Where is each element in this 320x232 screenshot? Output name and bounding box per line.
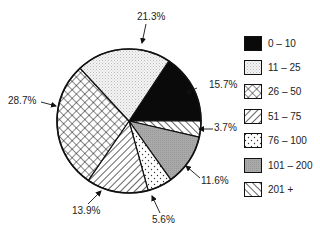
legend-item: 51 – 75 bbox=[244, 104, 313, 128]
legend-swatch bbox=[244, 182, 262, 197]
percent-label: 15.7% bbox=[209, 79, 237, 90]
percent-label: 28.7% bbox=[8, 95, 36, 106]
legend-swatch bbox=[244, 60, 262, 75]
legend-item: 101 – 200 bbox=[244, 153, 313, 177]
legend-item: 26 – 50 bbox=[244, 80, 313, 104]
legend: 0 – 1011 – 2526 – 5051 – 7576 – 100101 –… bbox=[244, 31, 313, 202]
legend-label: 0 – 10 bbox=[268, 38, 296, 49]
label-arrow bbox=[41, 102, 56, 106]
percent-label: 3.7% bbox=[214, 122, 237, 133]
label-arrow bbox=[88, 191, 101, 204]
legend-swatch bbox=[244, 36, 262, 51]
legend-label: 101 – 200 bbox=[268, 160, 313, 171]
label-arrow bbox=[186, 166, 200, 178]
legend-label: 51 – 75 bbox=[268, 111, 301, 122]
percent-label: 11.6% bbox=[201, 175, 229, 186]
percent-label: 13.9% bbox=[72, 205, 100, 216]
label-arrow bbox=[152, 196, 160, 213]
legend-swatch bbox=[244, 84, 262, 99]
legend-label: 26 – 50 bbox=[268, 86, 301, 97]
legend-label: 76 – 100 bbox=[268, 135, 307, 146]
label-arrow bbox=[142, 24, 146, 43]
legend-item: 201 + bbox=[244, 177, 313, 201]
legend-item: 76 – 100 bbox=[244, 129, 313, 153]
legend-item: 11 – 25 bbox=[244, 55, 313, 79]
legend-swatch bbox=[244, 109, 262, 124]
percent-label: 5.6% bbox=[152, 214, 175, 225]
legend-swatch bbox=[244, 158, 262, 173]
legend-item: 0 – 10 bbox=[244, 31, 313, 55]
legend-label: 11 – 25 bbox=[268, 62, 301, 73]
legend-swatch bbox=[244, 133, 262, 148]
percent-label: 21.3% bbox=[137, 11, 165, 22]
legend-label: 201 + bbox=[268, 184, 293, 195]
